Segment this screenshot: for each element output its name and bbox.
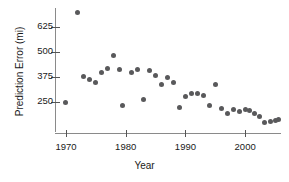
data-point xyxy=(129,70,134,75)
data-point xyxy=(117,67,122,72)
data-point xyxy=(207,103,212,108)
data-point xyxy=(159,82,164,87)
data-point xyxy=(189,91,194,96)
data-point xyxy=(147,68,152,73)
y-tick-label: 500 xyxy=(37,45,53,56)
x-axis-line xyxy=(55,133,281,134)
data-point xyxy=(81,74,86,79)
data-point xyxy=(231,107,236,112)
data-point xyxy=(257,114,262,119)
data-point xyxy=(120,103,125,108)
data-point xyxy=(276,117,281,122)
x-tick-label: 1990 xyxy=(175,141,196,152)
data-point xyxy=(153,73,158,78)
y-tick-label: 250 xyxy=(37,95,53,106)
x-tick-mark xyxy=(66,130,67,137)
x-tick-label: 1970 xyxy=(55,141,76,152)
data-point xyxy=(225,111,230,116)
x-tick-mark xyxy=(245,130,246,137)
data-point xyxy=(195,91,200,96)
data-point xyxy=(213,82,218,87)
data-point xyxy=(183,94,188,99)
data-point xyxy=(201,93,206,98)
data-point xyxy=(111,53,116,58)
data-point xyxy=(177,105,182,110)
scatter-chart: Prediction Error (mi) 250375500625 19701… xyxy=(0,0,289,182)
y-tick-label: 375 xyxy=(37,70,53,81)
y-axis-title: Prediction Error (mi) xyxy=(14,12,25,132)
data-point xyxy=(99,70,104,75)
plot-area: 250375500625 1970198019902000 xyxy=(57,8,281,132)
x-tick-label: 2000 xyxy=(235,141,256,152)
data-point xyxy=(268,119,273,124)
data-point xyxy=(219,106,224,111)
x-axis-title: Year xyxy=(0,160,289,171)
data-point xyxy=(87,77,92,82)
x-tick-mark xyxy=(185,130,186,137)
x-tick-mark xyxy=(126,130,127,137)
data-point xyxy=(141,97,146,102)
data-point xyxy=(237,109,242,114)
data-point xyxy=(165,75,170,80)
x-tick-label: 1980 xyxy=(115,141,136,152)
data-point xyxy=(135,67,140,72)
data-point xyxy=(93,80,98,85)
data-point xyxy=(75,10,80,15)
data-point xyxy=(262,120,267,125)
data-point xyxy=(171,80,176,85)
data-point xyxy=(105,66,110,71)
y-tick-label: 625 xyxy=(37,20,53,31)
data-point xyxy=(63,100,68,105)
